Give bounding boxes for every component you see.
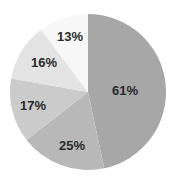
- pie-chart: 61% 25% 17% 16% 13%: [0, 0, 175, 184]
- slice-label-61: 61%: [112, 83, 138, 98]
- pie-chart-svg: 61% 25% 17% 16% 13%: [0, 0, 175, 184]
- slice-label-17: 17%: [20, 98, 46, 113]
- slice-label-25: 25%: [59, 138, 85, 153]
- pie-slices: [10, 14, 166, 170]
- slice-label-16: 16%: [31, 55, 57, 70]
- slice-label-13: 13%: [57, 29, 83, 44]
